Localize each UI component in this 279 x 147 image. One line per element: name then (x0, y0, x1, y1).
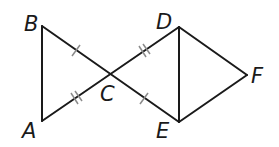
segment-df (179, 27, 247, 75)
label-a: A (20, 119, 36, 143)
geometry-diagram: B A C D E F (0, 0, 279, 147)
label-f: F (251, 64, 264, 88)
label-e: E (156, 119, 170, 143)
tick-ac-2 (75, 91, 82, 101)
tick-cd-2 (143, 44, 150, 54)
label-d: D (156, 10, 172, 34)
label-b: B (24, 12, 38, 36)
label-c: C (100, 82, 115, 106)
segment-ef (179, 75, 247, 122)
